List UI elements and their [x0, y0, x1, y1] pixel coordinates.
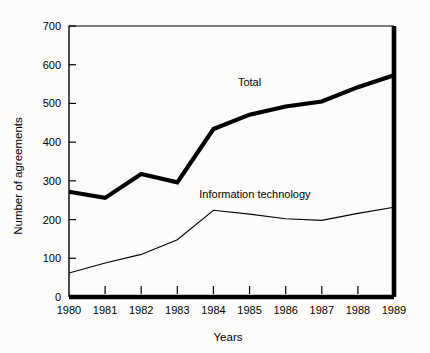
x-tick-label: 1981	[93, 304, 117, 316]
x-tick-label: 1983	[165, 304, 189, 316]
x-tick-label: 1984	[201, 304, 225, 316]
y-tick-label: 0	[55, 291, 61, 303]
y-tick-label: 200	[43, 214, 61, 226]
y-tick-label: 300	[43, 175, 61, 187]
y-axis-title: Number of agreements	[12, 117, 24, 235]
x-axis-tick-labels: 1980198119821983198419851986198719881989	[57, 304, 406, 316]
x-tick-label: 1982	[129, 304, 153, 316]
line-chart: 0100200300400500600700 19801981198219831…	[0, 0, 430, 353]
x-axis-ticks	[105, 286, 394, 294]
x-tick-label: 1980	[57, 304, 81, 316]
x-tick-label: 1985	[237, 304, 261, 316]
x-tick-label: 1989	[382, 304, 406, 316]
series-annotations: TotalInformation technology	[199, 76, 311, 200]
series-label: Total	[238, 76, 261, 88]
x-tick-label: 1986	[273, 304, 297, 316]
series-label: Information technology	[199, 188, 311, 200]
y-axis-ticks	[69, 26, 76, 297]
chart-figure: 0100200300400500600700 19801981198219831…	[0, 0, 430, 353]
y-tick-label: 700	[43, 20, 61, 32]
series-line	[69, 75, 394, 198]
y-tick-label: 400	[43, 136, 61, 148]
y-tick-label: 500	[43, 97, 61, 109]
x-axis-title: Years	[214, 331, 243, 343]
y-axis-tick-labels: 0100200300400500600700	[43, 20, 61, 303]
y-tick-label: 100	[43, 252, 61, 264]
x-tick-label: 1988	[346, 304, 370, 316]
plot-frame	[69, 26, 394, 297]
y-tick-label: 600	[43, 59, 61, 71]
x-tick-label: 1987	[310, 304, 334, 316]
data-series-group	[69, 75, 394, 273]
series-line	[69, 207, 394, 273]
